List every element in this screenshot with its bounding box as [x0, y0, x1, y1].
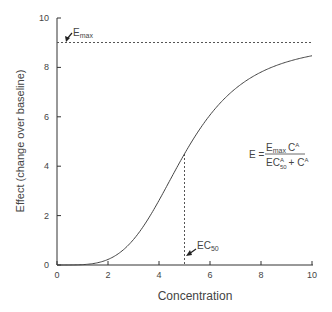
- hill-equation: E = EmaxCA ECA50+ CA: [249, 142, 308, 170]
- y-tick-label: 8: [44, 62, 49, 72]
- y-tick-label: 4: [44, 161, 49, 171]
- x-tick-label: 4: [156, 270, 161, 280]
- y-tick-label: 6: [44, 112, 49, 122]
- x-tick-label: 0: [54, 270, 59, 280]
- x-tick-label: 2: [105, 270, 110, 280]
- svg-text:EmaxCA: EmaxCA: [266, 142, 299, 154]
- x-tick-label: 8: [258, 270, 263, 280]
- svg-text:E =: E =: [249, 149, 264, 160]
- ec50-label: EC50: [197, 240, 219, 252]
- x-tick-label: 6: [207, 270, 212, 280]
- x-tick-label: 10: [307, 270, 317, 280]
- x-axis-label: Concentration: [158, 289, 233, 303]
- ec50-arrow-icon: [186, 249, 196, 256]
- chart: 02468100246810 Concentration Effect (cha…: [0, 0, 332, 312]
- y-tick-label: 2: [44, 211, 49, 221]
- y-tick-label: 10: [39, 13, 49, 23]
- y-tick-label: 0: [44, 260, 49, 270]
- y-axis-label: Effect (change over baseline): [14, 70, 26, 213]
- svg-text:ECA50+ CA: ECA50+ CA: [266, 157, 308, 170]
- emax-label: Emax: [73, 27, 93, 39]
- emax-arrow-icon: [65, 33, 72, 42]
